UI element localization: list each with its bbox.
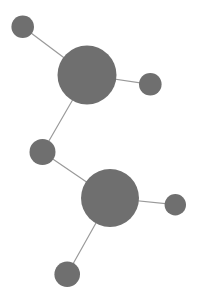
graph-node-n5[interactable]: [81, 169, 139, 227]
graph-node-n1[interactable]: [11, 15, 34, 38]
node-layer: [11, 15, 186, 287]
graph-canvas: [0, 0, 199, 305]
graph-node-n3[interactable]: [139, 73, 162, 96]
graph-node-n4[interactable]: [30, 139, 56, 165]
graph-node-n7[interactable]: [54, 261, 80, 287]
node-link-graph: [0, 0, 199, 305]
graph-node-n6[interactable]: [165, 194, 186, 215]
graph-node-n2[interactable]: [58, 46, 117, 105]
